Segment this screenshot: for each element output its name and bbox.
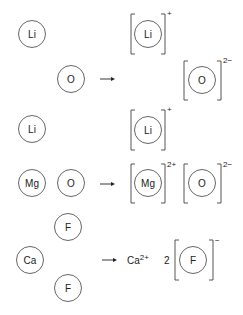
arrow-head-icon <box>111 77 115 81</box>
reactant-atom-mg: Mg <box>19 170 46 197</box>
element-symbol: O <box>67 74 75 85</box>
reactant-atom-f: F <box>55 214 82 241</box>
ion-charge: 2− <box>223 56 232 65</box>
product-ion-li: Li+ <box>131 105 172 150</box>
reaction-magnesium-oxide: MgOMg2+O2− <box>19 160 233 203</box>
reactant-atom-li: Li <box>19 21 46 48</box>
product-ion-o: O2− <box>184 160 232 203</box>
element-symbol: O <box>198 178 206 189</box>
element-symbol: Mg <box>25 178 39 189</box>
ion-charge: 2+ <box>167 160 176 169</box>
reaction-arrow <box>100 182 115 186</box>
reactant-atom-f: F <box>55 275 82 302</box>
element-symbol: F <box>65 222 71 233</box>
arrow-head-icon <box>111 182 115 186</box>
product-ion-o: O2− <box>184 56 232 100</box>
ion-charge: + <box>167 105 172 114</box>
reactant-atom-o: O <box>58 66 85 93</box>
right-bracket <box>217 164 221 203</box>
reaction-lithium-oxide: LiOLiLi+O2−Li+ <box>19 9 233 150</box>
product-ion-li: Li+ <box>131 9 172 54</box>
product-ion-mg: Mg2+ <box>131 160 176 203</box>
stoichiometric-coefficient: 2 <box>164 255 170 266</box>
element-symbol: F <box>65 283 71 294</box>
left-bracket <box>184 164 188 203</box>
ionic-bonding-diagram: LiOLiLi+O2−Li+MgOMg2+O2−FCaFCa2+2F− <box>0 0 243 315</box>
element-symbol: Li <box>144 125 152 136</box>
product-ion-f: F− <box>175 236 220 280</box>
element-symbol: Li <box>28 29 36 40</box>
element-symbol: Li <box>144 29 152 40</box>
reaction-arrow <box>102 258 117 262</box>
element-symbol: F <box>190 255 196 266</box>
free-ion-label: Ca2+ <box>127 253 149 266</box>
left-bracket <box>175 240 179 280</box>
element-symbol: O <box>198 75 206 86</box>
element-symbol: Ca <box>24 255 37 266</box>
right-bracket <box>209 240 213 280</box>
reactant-atom-li: Li <box>19 116 46 143</box>
element-symbol: O <box>67 178 75 189</box>
ion-charge: − <box>215 236 220 245</box>
ion-charge: + <box>167 9 172 18</box>
reactant-atom-o: O <box>58 170 85 197</box>
left-bracket <box>184 61 188 100</box>
ion-charge: 2− <box>223 160 232 169</box>
arrow-head-icon <box>113 258 117 262</box>
reaction-calcium-fluoride: FCaFCa2+2F− <box>17 214 221 302</box>
element-symbol: Mg <box>141 178 155 189</box>
reaction-arrow <box>100 77 115 81</box>
right-bracket <box>217 61 221 100</box>
reactant-atom-ca: Ca <box>17 247 44 274</box>
element-symbol: Li <box>28 124 36 135</box>
